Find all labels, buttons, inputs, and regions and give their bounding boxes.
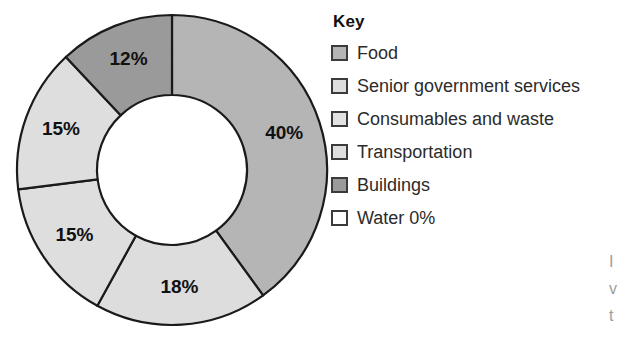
legend-swatch-icon (331, 210, 348, 226)
legend-item: Water 0% (331, 201, 621, 234)
legend-item-label: Buildings (357, 175, 430, 195)
donut-slice-label: 18% (160, 276, 198, 297)
donut-slice-label: 15% (55, 224, 93, 245)
legend-item: Consumables and waste (331, 102, 621, 135)
legend-swatch-icon (331, 78, 348, 94)
legend-item-list: FoodSenior government servicesConsumable… (331, 36, 621, 234)
legend-item: Senior government services (331, 69, 621, 102)
donut-chart-area: 40%18%15%15%12% (0, 0, 340, 346)
margin-text-line-2: v (609, 275, 625, 302)
chart-legend: Key FoodSenior government servicesConsum… (331, 12, 621, 234)
legend-item: Food (331, 36, 621, 69)
margin-text-line-1: I (609, 248, 625, 275)
legend-item-label: Transportation (357, 142, 472, 162)
margin-text-line-3: t (609, 302, 625, 329)
legend-item-label: Food (357, 43, 398, 63)
donut-slice-label: 15% (42, 118, 80, 139)
legend-item: Transportation (331, 135, 621, 168)
legend-swatch-icon (331, 111, 348, 127)
legend-item-label: Water 0% (357, 208, 435, 228)
donut-chart: 40%18%15%15%12% (0, 0, 340, 346)
legend-swatch-icon (331, 177, 348, 193)
donut-slice-label: 12% (110, 48, 148, 69)
legend-item-label: Senior government services (357, 76, 580, 96)
legend-item: Buildings (331, 168, 621, 201)
legend-swatch-icon (331, 45, 348, 61)
donut-slice-label: 40% (265, 122, 303, 143)
legend-swatch-icon (331, 144, 348, 160)
legend-item-label: Consumables and waste (357, 109, 554, 129)
page-margin-text: I v t (609, 248, 625, 329)
legend-title: Key (333, 12, 621, 32)
